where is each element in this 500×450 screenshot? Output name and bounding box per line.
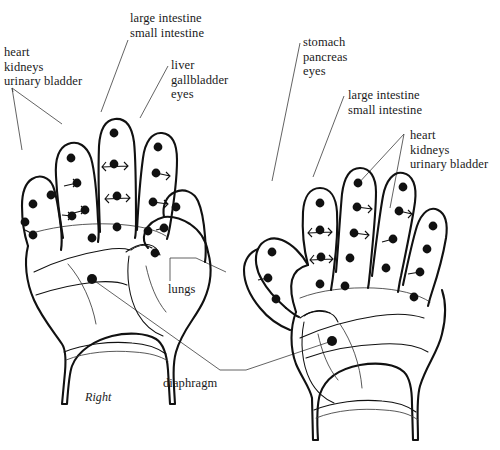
point-r-thumb-3	[272, 295, 281, 304]
point-r-middle-1	[354, 179, 363, 188]
point-palm-diaphragm-right	[327, 336, 337, 346]
point-middle-4	[113, 223, 122, 232]
label-heart-right-line2: kidneys	[410, 143, 488, 158]
label-stomach-line2: pancreas	[303, 50, 348, 65]
label-heart-kidneys-bladder-right: heart kidneys urinary bladder	[410, 128, 488, 172]
point-r-index-4	[316, 280, 325, 289]
label-heart-left-line1: heart	[4, 45, 82, 60]
point-thumb-3	[151, 249, 160, 258]
right-thumb-web	[300, 311, 338, 322]
label-heart-right-line3: urinary bladder	[410, 157, 488, 172]
leader-heart-left-b	[12, 88, 62, 124]
point-r-middle-5	[341, 282, 350, 291]
point-r-index-1	[316, 199, 325, 208]
label-stomach-line1: stomach	[303, 35, 348, 50]
leader-lungs	[170, 258, 196, 281]
leader-intestine-left	[101, 40, 128, 112]
label-intestine-right-line1: large intestine	[348, 88, 422, 103]
leader-diaphragm-right	[246, 341, 332, 370]
label-lungs: lungs	[168, 282, 196, 297]
point-index-4	[144, 227, 153, 236]
point-r-little-1	[429, 222, 438, 231]
label-stomach-line3: eyes	[303, 64, 348, 79]
right-life-line	[340, 324, 362, 388]
left-thenar-crease2	[146, 266, 166, 312]
label-intestine-right-line2: small intestine	[348, 103, 422, 118]
leader-heart-right-a	[356, 134, 404, 186]
label-right-side-text: Right	[85, 390, 112, 405]
left-ring-finger	[56, 143, 99, 242]
label-heart-left-line2: kidneys	[4, 60, 82, 75]
right-heart-line	[300, 314, 424, 338]
leader-heart-right-b	[390, 134, 404, 208]
point-r-thumb-1	[268, 248, 277, 257]
point-little-3	[29, 200, 38, 209]
point-palm-diaphragm-left	[87, 274, 97, 284]
point-ring-1	[67, 154, 76, 163]
point-index-1	[154, 143, 163, 152]
point-little-5	[29, 231, 38, 240]
left-life-line	[68, 264, 96, 324]
right-little-finger	[403, 209, 447, 306]
label-stomach-pancreas-eyes: stomach pancreas eyes	[303, 35, 348, 79]
left-heart-line	[34, 249, 130, 273]
hand-reflexology-diagram: heart kidneys urinary bladder large inte…	[0, 0, 500, 450]
label-intestine-left: large intestine small intestine	[130, 11, 204, 40]
label-right-side: Right	[85, 390, 112, 405]
label-diaphragm: diaphragm	[163, 376, 217, 391]
left-hand-figure	[21, 119, 211, 404]
label-liver-line1: liver	[171, 58, 228, 73]
label-lungs-text: lungs	[168, 282, 196, 297]
point-r-little-4	[410, 293, 419, 302]
label-heart-right-line1: heart	[410, 128, 488, 143]
label-liver-gallbladder-eyes: liver gallbladder eyes	[171, 58, 228, 102]
left-hand-points	[21, 129, 181, 284]
point-r-middle-4	[346, 254, 355, 263]
point-ring-4	[88, 234, 97, 243]
right-hand-points	[258, 179, 437, 346]
label-intestine-left-line2: small intestine	[130, 26, 204, 41]
leader-diaphragm-left	[92, 279, 220, 370]
point-thumb-1	[172, 203, 181, 212]
left-middle-finger	[99, 119, 136, 238]
left-thenar-crease	[128, 256, 163, 336]
point-little-1	[47, 191, 56, 200]
leader-heart-left-a	[12, 88, 22, 150]
point-little-4	[21, 218, 30, 227]
point-r-little-2	[423, 245, 432, 254]
label-heart-kidneys-bladder-left: heart kidneys urinary bladder	[4, 45, 82, 89]
label-heart-left-line3: urinary bladder	[4, 74, 82, 89]
point-middle-1	[110, 129, 119, 138]
leader-stomach-right	[272, 43, 300, 181]
label-intestine-right: large intestine small intestine	[348, 88, 422, 117]
right-thumb-inner	[286, 308, 299, 317]
right-palm-left-edge	[291, 265, 308, 312]
right-hand-outline	[292, 290, 446, 440]
label-liver-line3: eyes	[171, 87, 228, 102]
point-r-ring-4	[382, 264, 391, 273]
label-intestine-left-line1: large intestine	[130, 11, 204, 26]
right-wrist-crease-1	[314, 400, 416, 412]
leader-liver-left	[140, 66, 168, 118]
right-wrist-crease-2	[316, 409, 418, 420]
leader-intestine-right	[313, 96, 344, 177]
right-hand-figure	[244, 168, 447, 440]
point-r-ring-1	[399, 183, 408, 192]
left-wrist-crease-1	[64, 342, 166, 354]
label-diaphragm-text: diaphragm	[163, 376, 217, 391]
label-liver-line2: gallbladder	[171, 73, 228, 88]
